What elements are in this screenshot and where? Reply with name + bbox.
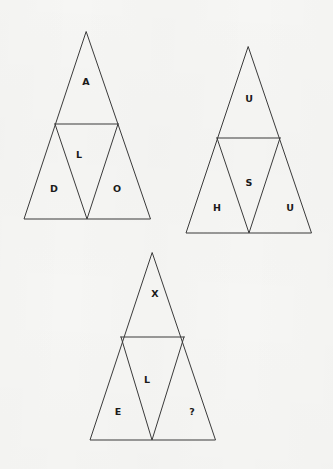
triangle-1-cell-top: A	[82, 76, 90, 87]
triangle-3-cell-bottom-right[interactable]: ?	[189, 406, 195, 417]
triangle-3-cell-bottom-left: E	[115, 406, 122, 417]
triangle-3-cell-top: X	[151, 288, 159, 299]
triangle-3-outline	[90, 253, 215, 440]
triangle-1-cell-middle: L	[76, 149, 82, 160]
triangle-3-inner-triangle	[121, 337, 184, 440]
triangle-3-cell-middle: L	[144, 374, 150, 385]
triangle-2-cell-top: U	[245, 93, 253, 104]
triangle-2: USHU	[186, 47, 311, 233]
triangle-1-outline	[24, 32, 150, 219]
triangle-1: ALDO	[24, 32, 150, 219]
triangle-2-cell-bottom-left: H	[213, 202, 221, 213]
puzzle-canvas: ALDOUSHUXLE?	[0, 0, 333, 469]
figures-layer: ALDOUSHUXLE?	[24, 32, 311, 440]
triangle-1-cell-bottom-right: O	[113, 183, 121, 194]
triangle-3: XLE?	[90, 253, 215, 440]
triangle-1-inner-triangle	[55, 124, 118, 219]
triangle-2-cell-middle: S	[246, 177, 253, 188]
triangle-1-cell-bottom-left: D	[50, 183, 58, 194]
triangle-2-cell-bottom-right: U	[286, 202, 294, 213]
